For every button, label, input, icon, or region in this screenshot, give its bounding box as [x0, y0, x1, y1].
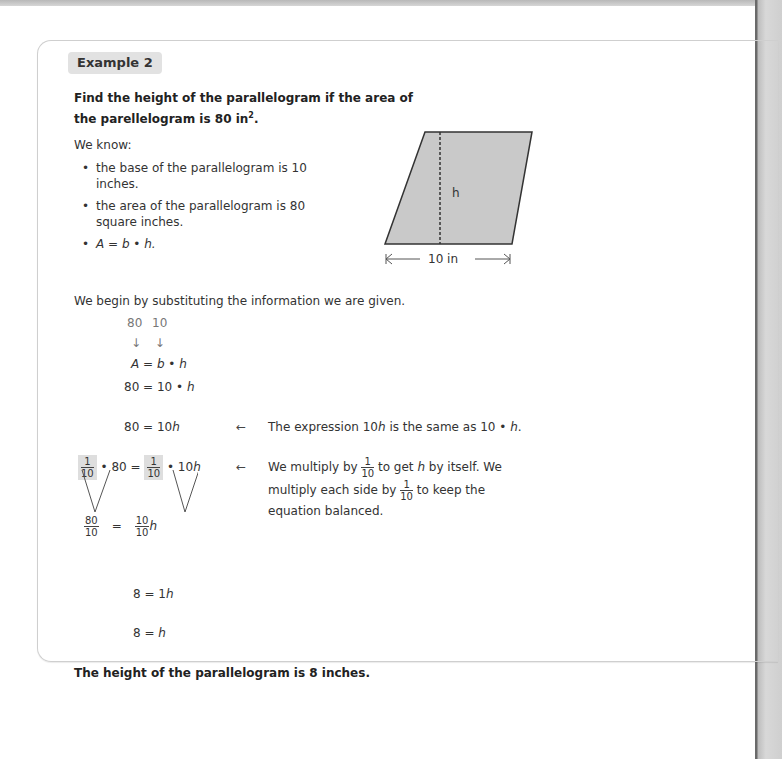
denominator: 10: [84, 527, 99, 538]
prompt-period: .: [254, 112, 259, 126]
fact-item: A = b • h.: [96, 236, 336, 252]
fraction: 110: [361, 456, 374, 479]
note-text: We multiply by: [268, 460, 361, 474]
problem-statement: Find the height of the parallelogram if …: [74, 89, 414, 128]
dot-op: •: [165, 357, 180, 371]
parallelogram-figure: h 10 in: [380, 128, 540, 273]
numerator: 80: [84, 515, 99, 527]
equation-formula: A = b • h: [131, 357, 187, 371]
eq-sign: =: [139, 357, 157, 371]
intro-text: We begin by substituting the information…: [74, 294, 405, 308]
numerator: 1: [147, 456, 160, 468]
var-h: h: [172, 420, 180, 434]
denominator: 10: [400, 491, 413, 502]
note-text: is the same as 10 •: [386, 420, 511, 434]
fact-item: the base of the parallelogram is 10 inch…: [96, 160, 336, 192]
equation-divided: 8010=1010h: [84, 515, 157, 538]
fraction: 8010: [84, 515, 99, 538]
numerator: 1: [400, 479, 413, 491]
given-facts-list: the base of the parallelogram is 10 inch…: [96, 160, 336, 258]
equation-substituted: 80 = 10 • h: [124, 380, 195, 394]
var-h: h: [179, 357, 187, 371]
eq-text: 80 = 10 •: [124, 380, 187, 394]
note-expression: The expression 10h is the same as 10 • h…: [268, 418, 522, 437]
eq-text: 8 =: [133, 626, 158, 640]
note-multiply: We multiply by 110 to get h by itself. W…: [268, 456, 502, 521]
eq-text: 80 = 10: [124, 420, 172, 434]
page-top-edge: [0, 0, 755, 6]
example-badge: Example 2: [68, 52, 162, 74]
var-h: h: [510, 420, 518, 434]
fraction: 110: [400, 479, 413, 502]
conclusion-text: The height of the parallelogram is 8 inc…: [74, 666, 370, 680]
numerator: 1: [361, 456, 374, 468]
base-label: 10 in: [428, 252, 458, 266]
left-arrow-icon: ←: [236, 460, 246, 474]
eq-text: 8 = 1: [133, 587, 166, 601]
denominator: 10: [135, 527, 150, 538]
note-text: multiply each side by: [268, 483, 400, 497]
height-label: h: [452, 186, 460, 200]
v-connector-left: [82, 470, 110, 512]
substitution-values: 80 10: [127, 316, 167, 330]
eq-sign: =: [99, 519, 135, 533]
prompt-text: Find the height of the parallelogram if …: [74, 91, 413, 126]
note-line: We multiply by 110 to get h by itself. W…: [268, 456, 502, 479]
note-line: multiply each side by 110 to keep the: [268, 479, 502, 502]
equation-simplified: 80 = 10h: [124, 420, 180, 434]
fraction: 1010: [135, 515, 150, 538]
var-h: h: [417, 460, 425, 474]
note-text: to keep the: [413, 483, 485, 497]
substitution-arrows: ↓ ↓: [131, 336, 165, 350]
var-a: A: [131, 357, 139, 371]
var-h: h: [187, 380, 195, 394]
var-b: b: [157, 357, 165, 371]
var-h: h: [158, 626, 166, 640]
left-arrow-icon: ←: [236, 420, 246, 434]
equation-one-h: 8 = 1h: [133, 587, 174, 601]
v-connector-right: [173, 470, 198, 512]
numerator: 1: [81, 456, 94, 468]
var-h: h: [378, 420, 386, 434]
note-line: equation balanced.: [268, 502, 502, 521]
note-text: .: [518, 420, 522, 434]
note-text: to get: [374, 460, 417, 474]
denominator: 10: [361, 468, 374, 479]
we-know-label: We know:: [74, 138, 131, 152]
var-h: h: [166, 587, 174, 601]
note-text: The expression 10: [268, 420, 378, 434]
equation-final: 8 = h: [133, 626, 166, 640]
fact-item: the area of the parallelogram is 80 squa…: [96, 198, 336, 230]
var-h: h: [149, 519, 157, 533]
note-text: by itself. We: [425, 460, 502, 474]
combine-lines: [78, 468, 198, 518]
numerator: 10: [135, 515, 150, 527]
